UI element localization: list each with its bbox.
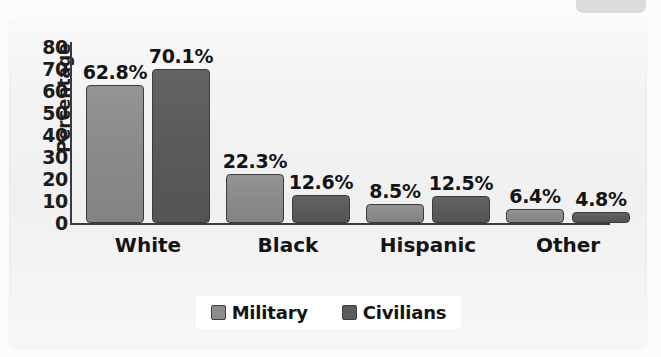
bar-hispanic-military <box>366 204 424 223</box>
bar-other-military <box>506 209 564 223</box>
legend-item-military[interactable]: Military <box>211 304 308 322</box>
y-axis-tick-0: 0 <box>24 214 68 233</box>
y-axis-tick-30: 30 <box>24 148 68 167</box>
legend-swatch-icon-civilians <box>342 305 357 320</box>
y-axis-line <box>70 42 72 223</box>
bar-value-black-civilians: 12.6% <box>286 173 356 192</box>
y-axis-tick-50: 50 <box>24 104 68 123</box>
bar-value-white-civilians: 70.1% <box>146 47 216 66</box>
category-label-other: Other <box>492 235 644 255</box>
legend-item-civilians[interactable]: Civilians <box>342 304 447 322</box>
category-label-black: Black <box>212 235 364 255</box>
bar-white-civilians <box>152 69 210 223</box>
legend-label-military: Military <box>232 304 308 322</box>
y-axis-tick-60: 60 <box>24 82 68 101</box>
bar-other-civilians <box>572 212 630 223</box>
chart-legend: MilitaryCivilians <box>196 296 461 329</box>
y-axis-tick-10: 10 <box>24 192 68 211</box>
bar-white-military <box>86 85 144 223</box>
bar-value-hispanic-civilians: 12.5% <box>426 174 496 193</box>
y-axis-ticks: 80706050403020100 <box>24 47 68 223</box>
bar-hispanic-civilians <box>432 196 490 224</box>
chart-screenshot: Percentage 80706050403020100 62.8%70.1%W… <box>0 0 661 357</box>
bar-value-other-military: 6.4% <box>500 187 570 206</box>
legend-swatch-icon-military <box>211 305 226 320</box>
category-label-white: White <box>72 235 224 255</box>
bar-value-white-military: 62.8% <box>80 63 150 82</box>
bar-value-hispanic-military: 8.5% <box>360 182 430 201</box>
bar-black-military <box>226 174 284 223</box>
scan-artifact <box>576 0 646 13</box>
bar-value-other-civilians: 4.8% <box>566 190 636 209</box>
y-axis-tick-40: 40 <box>24 126 68 145</box>
bar-black-civilians <box>292 195 350 223</box>
bar-value-black-military: 22.3% <box>220 152 290 171</box>
y-axis-tick-80: 80 <box>24 38 68 57</box>
x-axis-line <box>70 223 610 225</box>
y-axis-tick-20: 20 <box>24 170 68 189</box>
y-axis-tick-70: 70 <box>24 60 68 79</box>
plot-area: 62.8%70.1%White22.3%12.6%Black8.5%12.5%H… <box>70 47 610 223</box>
category-label-hispanic: Hispanic <box>352 235 504 255</box>
legend-label-civilians: Civilians <box>363 304 447 322</box>
